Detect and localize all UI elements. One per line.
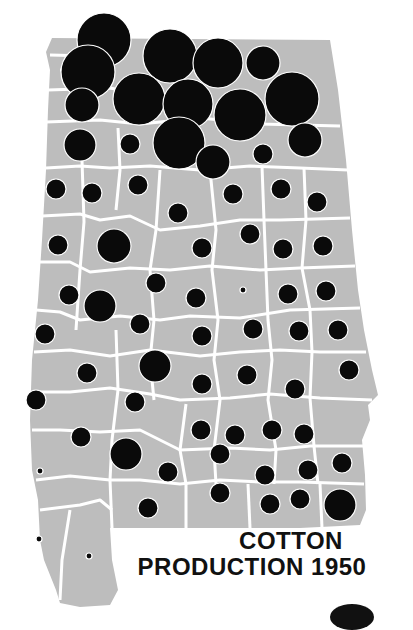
production-circle: [193, 38, 243, 88]
production-circle: [97, 229, 131, 263]
production-circle: [37, 468, 43, 474]
page-edge-shape: [330, 604, 374, 630]
production-circle: [192, 326, 212, 346]
production-circle: [290, 489, 310, 509]
production-circle: [324, 489, 356, 521]
production-circle: [262, 420, 282, 440]
production-circle: [214, 89, 266, 141]
production-circle: [120, 134, 140, 154]
production-circle: [77, 363, 97, 383]
production-circle: [84, 290, 116, 322]
production-circle: [253, 144, 273, 164]
production-circle: [46, 179, 66, 199]
production-circle: [146, 273, 166, 293]
production-circle: [307, 192, 327, 212]
production-circle: [278, 284, 298, 304]
production-circle: [113, 73, 165, 125]
production-circle: [240, 287, 246, 293]
production-circle: [110, 438, 142, 470]
production-circle: [26, 390, 46, 410]
production-circle: [289, 321, 309, 341]
production-circle: [192, 374, 212, 394]
production-circle: [139, 350, 171, 382]
production-circle: [260, 494, 280, 514]
production-circle: [339, 360, 359, 380]
production-circle: [125, 392, 145, 412]
production-circle: [186, 288, 206, 308]
production-circle: [128, 175, 148, 195]
production-circle: [36, 536, 42, 542]
production-circle: [240, 224, 260, 244]
production-circle: [246, 46, 280, 80]
production-circle: [138, 498, 158, 518]
production-circle: [59, 285, 79, 305]
production-circle: [285, 379, 305, 399]
production-circle: [237, 365, 257, 385]
production-circle: [143, 29, 197, 83]
production-circle: [71, 427, 91, 447]
production-circle: [210, 444, 230, 464]
production-circle: [271, 179, 291, 199]
production-circle: [265, 72, 319, 126]
production-circle: [210, 483, 230, 503]
map-title: COTTON PRODUCTION 1950: [83, 528, 413, 580]
production-circle: [82, 183, 102, 203]
production-circle: [316, 281, 336, 301]
production-circle: [192, 238, 212, 258]
production-circle: [158, 462, 178, 482]
production-circle: [255, 465, 275, 485]
production-circle: [168, 203, 188, 223]
production-circle: [223, 184, 243, 204]
production-circle: [64, 129, 96, 161]
title-line-1: COTTON: [83, 528, 413, 554]
production-circle: [313, 236, 333, 256]
production-circle: [328, 320, 348, 340]
production-circle: [288, 123, 322, 157]
production-circle: [130, 314, 150, 334]
production-circle: [35, 324, 55, 344]
production-circle: [191, 420, 211, 440]
production-circle: [294, 424, 314, 444]
production-circle: [225, 425, 245, 445]
title-line-2: PRODUCTION 1950: [83, 554, 413, 580]
production-circle: [298, 460, 318, 480]
production-circle: [196, 145, 230, 179]
production-circle: [48, 235, 68, 255]
production-circle: [243, 319, 263, 339]
production-circle: [273, 239, 293, 259]
production-circle: [332, 453, 352, 473]
production-circle: [65, 88, 99, 122]
